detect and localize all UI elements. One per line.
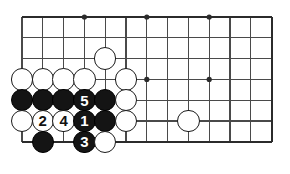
stone-black[interactable] [94,89,116,111]
stone-black[interactable] [32,89,54,111]
stone-black-move-3[interactable]: 3 [73,131,95,153]
stone-black[interactable] [11,89,33,111]
stone-white-move-2[interactable]: 2 [32,110,54,132]
stone-black[interactable] [32,131,54,153]
stone-white[interactable] [94,47,116,69]
stone-white-move-4[interactable]: 4 [52,110,74,132]
stone-move-number: 5 [80,93,88,108]
stone-white[interactable] [11,68,33,90]
stone-white[interactable] [115,68,137,90]
go-board-diagram: 52413 [0,0,290,174]
stone-move-number: 2 [39,113,47,128]
stone-white[interactable] [32,68,54,90]
stone-move-number: 3 [80,134,88,149]
stone-white[interactable] [73,68,95,90]
stone-layer: 52413 [0,0,290,174]
stone-white[interactable] [115,110,137,132]
stone-black-move-1[interactable]: 1 [73,110,95,132]
stone-white[interactable] [115,89,137,111]
stone-white[interactable] [94,131,116,153]
stone-move-number: 1 [80,113,88,128]
stone-black[interactable] [94,110,116,132]
stone-white[interactable] [177,110,199,132]
stone-black[interactable] [52,89,74,111]
stone-white[interactable] [11,110,33,132]
stone-white[interactable] [52,68,74,90]
stone-move-number: 4 [59,113,67,128]
stone-black-move-5[interactable]: 5 [73,89,95,111]
